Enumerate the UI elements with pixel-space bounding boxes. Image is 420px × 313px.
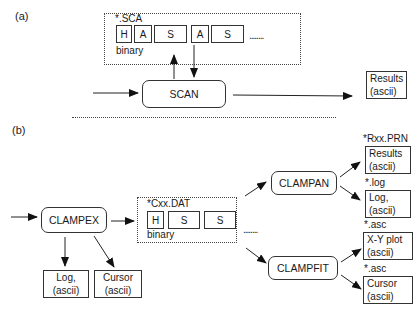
- output-line1: Log,: [369, 191, 407, 204]
- header-cell: H: [147, 211, 164, 229]
- panel-b-label: (b): [12, 124, 25, 136]
- asc-ext: *.asc: [364, 263, 386, 274]
- clampex-process: CLAMPEX: [41, 207, 107, 233]
- ellipsis: ........: [249, 30, 263, 41]
- ellipsis: ........: [243, 224, 257, 235]
- output-line1: Log,: [47, 271, 85, 284]
- clampex-cursor-output: Cursor (ascii): [94, 270, 142, 298]
- output-line1: Results: [369, 147, 407, 160]
- average-cell: A: [134, 25, 152, 43]
- output-line2: (ascii): [98, 284, 138, 297]
- clampan-results-output: Results (ascii): [365, 146, 411, 174]
- scan-results-output: Results (ascii): [366, 71, 407, 99]
- clampfit-xy-plot-output: X-Y plot (ascii): [363, 232, 413, 260]
- output-line1: Cursor: [98, 271, 138, 284]
- sweep-cell: S: [168, 211, 200, 229]
- output-line2: (ascii): [367, 246, 409, 259]
- format-label: binary: [147, 229, 174, 240]
- clampex-log-output: Log, (ascii): [43, 270, 89, 298]
- output-line2: (ascii): [370, 85, 403, 98]
- panel-a-label: (a): [15, 10, 28, 22]
- output-line2: (ascii): [367, 290, 409, 303]
- clampfit-cursor-output: Cursor (ascii): [363, 276, 413, 304]
- output-line2: (ascii): [369, 160, 407, 173]
- asc-ext: *.asc: [364, 219, 386, 230]
- rxx-prn-ext: *Rxx.PRN: [363, 133, 408, 144]
- dat-file-group: *Cxx.DAT H S S binary: [137, 197, 237, 243]
- clampan-log-output: Log, (ascii): [365, 190, 411, 218]
- sweep-cell: S: [154, 25, 187, 43]
- output-line1: X-Y plot: [367, 233, 409, 246]
- sweep-cell: S: [211, 25, 244, 43]
- clampfit-process: CLAMPFIT: [268, 256, 338, 280]
- clampan-process: CLAMPAN: [271, 171, 337, 195]
- sweep-cell: S: [204, 211, 236, 229]
- output-line2: (ascii): [47, 284, 85, 297]
- format-label: binary: [116, 45, 143, 56]
- header-cell: H: [116, 25, 132, 43]
- output-line1: Results: [370, 72, 403, 85]
- average-cell: A: [191, 25, 209, 43]
- scan-process: SCAN: [142, 80, 226, 108]
- sca-file-name: *.SCA: [115, 13, 142, 24]
- output-line1: Cursor: [367, 277, 409, 290]
- sca-file-group: *.SCA H A S A S ........ binary: [104, 13, 301, 65]
- log-ext: *.log: [365, 177, 385, 188]
- output-line2: (ascii): [369, 204, 407, 217]
- panel-divider: [72, 117, 336, 118]
- dat-file-name: *Cxx.DAT: [147, 198, 190, 209]
